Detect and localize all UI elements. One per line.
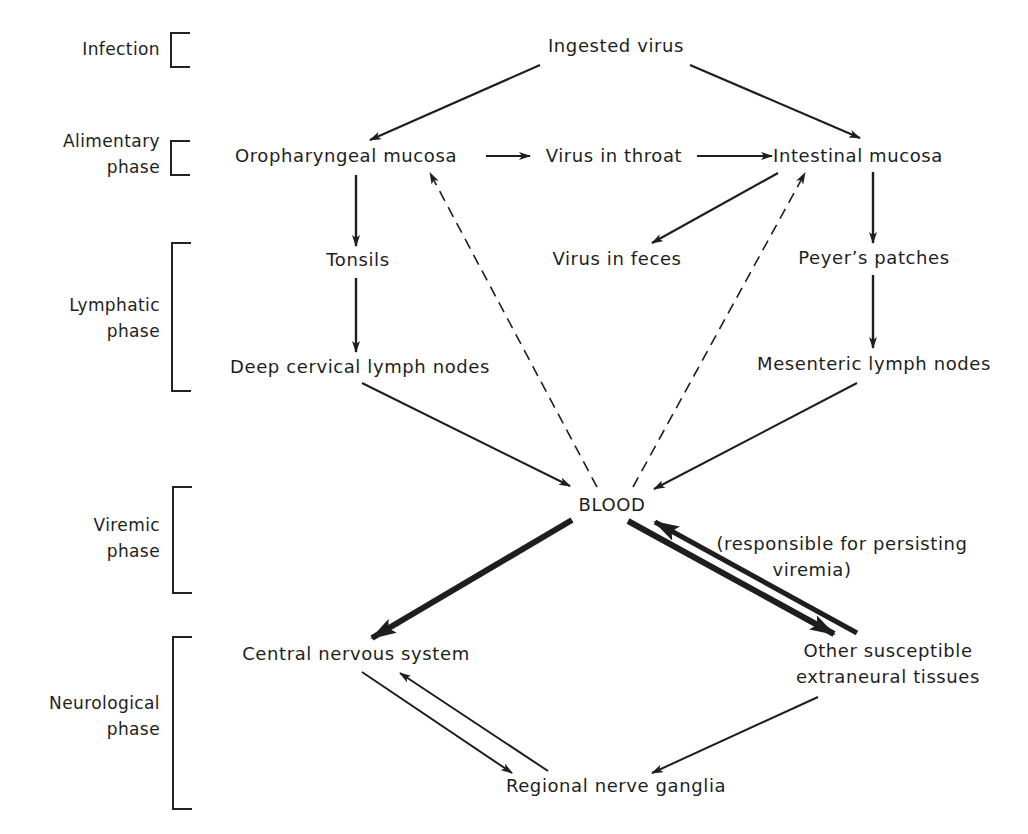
node-peyers-patches: Peyer’s patches <box>798 245 950 271</box>
arrow-blood-to-cns-bold <box>372 520 572 638</box>
node-mesenteric-lymph-nodes: Mesenteric lymph nodes <box>757 351 991 377</box>
node-intestinal-mucosa: Intestinal mucosa <box>773 143 943 169</box>
arrow-ingested-to-intestinal <box>690 65 860 138</box>
node-ingested-virus: Ingested virus <box>548 33 684 59</box>
node-virus-in-feces: Virus in feces <box>552 246 681 272</box>
node-oropharyngeal-mucosa: Oropharyngeal mucosa <box>235 143 457 169</box>
annotation-line: (responsible for persisting <box>716 531 967 557</box>
annotation-line: viremia) <box>716 557 967 583</box>
arrow-mesenteric-to-blood <box>654 383 857 489</box>
arrow-ingested-to-oropharyngeal <box>370 65 540 140</box>
flow-diagram <box>0 0 1028 834</box>
node-deep-cervical-lymph-nodes: Deep cervical lymph nodes <box>230 354 490 380</box>
arrow-deep-cervical-to-blood <box>362 383 570 486</box>
arrow-blood-to-intestinal-dashed <box>633 173 805 487</box>
node-line: Other susceptible <box>796 638 980 664</box>
node-virus-in-throat: Virus in throat <box>546 143 683 169</box>
node-tonsils: Tonsils <box>326 247 389 273</box>
node-other-extraneural-tissues: Other susceptible extraneural tissues <box>796 638 980 690</box>
node-line: extraneural tissues <box>796 664 980 690</box>
arrow-blood-to-oropharyngeal-dashed <box>430 173 597 487</box>
arrow-cns-to-ganglia <box>362 672 512 773</box>
node-regional-nerve-ganglia: Regional nerve ganglia <box>506 773 726 799</box>
arrow-other-tissues-to-ganglia <box>652 697 818 773</box>
node-blood: BLOOD <box>579 492 646 518</box>
node-central-nervous-system: Central nervous system <box>242 641 470 667</box>
arrow-intestinal-to-feces <box>652 173 778 243</box>
annotation-persisting-viremia: (responsible for persisting viremia) <box>716 531 967 583</box>
arrow-ganglia-to-cns <box>400 673 548 771</box>
